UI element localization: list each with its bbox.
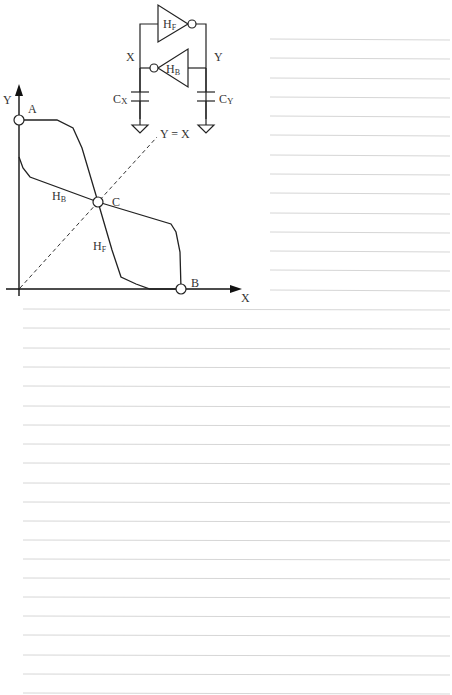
cap-y-label: CY [219,92,234,106]
notebook-page: HF HB X Y CX CY Y X Y = X A B C HB HF [0,0,452,695]
forward-inverter-bubble [188,20,196,28]
ground-x-icon [132,125,148,133]
point-b-label: B [191,276,199,290]
ground-y-icon [198,125,214,133]
point-a [14,115,24,125]
ruled-lines-right [270,39,450,291]
cap-x-label: CX [113,92,128,106]
curve-hb [19,157,181,289]
curve-hb-label: HB [52,189,66,204]
node-y-label: Y [214,50,223,64]
diagonal-y-equals-x [20,137,157,288]
ruled-lines-full [23,309,450,694]
y-axis-label: Y [3,93,12,107]
y-axis-arrow-icon [15,84,23,96]
backward-inverter-bubble [150,64,158,72]
point-a-label: A [28,102,37,116]
x-axis-label: X [241,291,250,305]
point-c-label: C [112,195,120,209]
diagram-canvas: HF HB X Y CX CY Y X Y = X A B C HB HF [0,0,452,695]
point-c [93,197,103,207]
curve-hf-label: HF [93,239,107,254]
node-x-label: X [126,50,135,64]
point-b [176,284,186,294]
diagonal-label: Y = X [160,127,190,141]
